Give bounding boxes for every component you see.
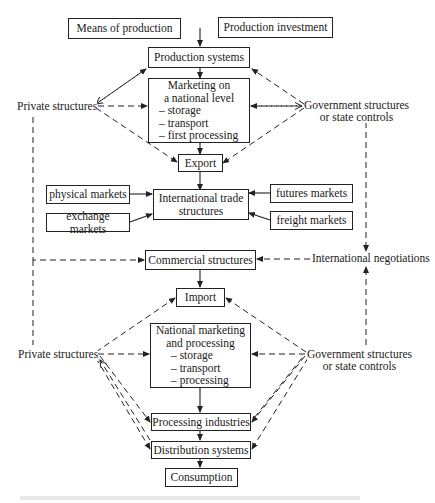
international-negotiations-label: International negotiations: [312, 253, 430, 265]
export-label: Export: [185, 157, 216, 170]
means-of-production-box: Means of production: [68, 18, 181, 39]
freight-markets-label: freight markets: [277, 214, 347, 227]
national-processing-box: National marketing and processing – stor…: [150, 323, 251, 388]
international-trade-line-1: International trade: [159, 192, 244, 205]
futures-markets-box: futures markets: [270, 184, 353, 203]
consumption-box: Consumption: [165, 468, 238, 487]
government-top-line-1: Government structures: [304, 99, 409, 111]
consumption-label: Consumption: [171, 471, 233, 484]
marketing-national-box: Marketing on a national level – storage …: [148, 78, 250, 143]
international-trade-box: International trade structures: [153, 189, 249, 220]
national-item-storage: – storage: [151, 349, 213, 362]
marketing-item-storage: – storage: [149, 104, 201, 117]
means-of-production-label: Means of production: [77, 22, 173, 35]
import-box: Import: [176, 288, 225, 307]
government-structures-top-label: Government structures or state controls: [304, 99, 409, 123]
national-processing-title-2: and processing: [166, 337, 235, 350]
export-box: Export: [178, 154, 223, 172]
figure-caption-cutoff: [20, 496, 360, 500]
government-structures-bottom-label: Government structures or state controls: [307, 348, 412, 372]
physical-markets-box: physical markets: [46, 185, 130, 204]
distribution-systems-box: Distribution systems: [151, 441, 251, 459]
national-processing-title-1: National marketing: [156, 324, 245, 337]
processing-industries-box: Processing industries: [151, 413, 251, 431]
production-systems-box: Production systems: [148, 47, 250, 68]
production-systems-label: Production systems: [154, 51, 244, 64]
commercial-structures-box: Commercial structures: [145, 250, 256, 270]
exchange-markets-box: exchange markets: [46, 213, 130, 232]
distribution-systems-label: Distribution systems: [154, 444, 249, 457]
marketing-national-title-1: Marketing on: [168, 79, 230, 92]
marketing-national-title-2: a national level: [164, 92, 234, 105]
futures-markets-label: futures markets: [276, 187, 347, 200]
national-item-transport: – transport: [151, 362, 221, 375]
production-investment-label: Production investment: [224, 21, 328, 34]
marketing-item-first-processing: – first processing: [149, 129, 238, 142]
physical-markets-label: physical markets: [49, 188, 127, 201]
national-item-processing: – processing: [151, 374, 229, 387]
government-bottom-line-2: or state controls: [307, 360, 412, 372]
private-structures-bottom-label: Private structures: [18, 349, 98, 361]
import-label: Import: [185, 291, 216, 304]
production-investment-box: Production investment: [218, 17, 333, 38]
exchange-markets-label: exchange markets: [47, 210, 129, 235]
government-top-line-2: or state controls: [304, 111, 409, 123]
government-bottom-line-1: Government structures: [307, 348, 412, 360]
processing-industries-label: Processing industries: [152, 416, 249, 429]
freight-markets-box: freight markets: [270, 211, 353, 230]
commercial-structures-label: Commercial structures: [148, 254, 252, 267]
private-structures-top-label: Private structures: [17, 101, 97, 113]
international-trade-line-2: structures: [179, 205, 224, 218]
marketing-item-transport: – transport: [149, 117, 209, 130]
